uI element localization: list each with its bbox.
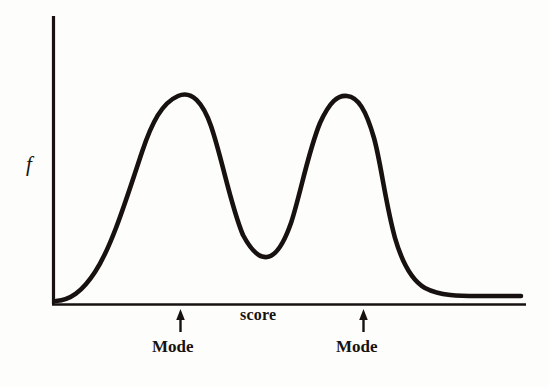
mode-label-left: Mode: [152, 338, 194, 355]
up-arrow-icon-left: [176, 309, 185, 332]
y-axis-label: f: [26, 154, 32, 175]
frequency-curve: [56, 95, 521, 301]
distribution-plot: [0, 0, 549, 387]
figure-root: f score Mode Mode: [0, 0, 549, 387]
x-axis-label: score: [240, 307, 276, 323]
up-arrow-icon-right: [359, 309, 368, 332]
mode-label-right: Mode: [336, 338, 378, 355]
